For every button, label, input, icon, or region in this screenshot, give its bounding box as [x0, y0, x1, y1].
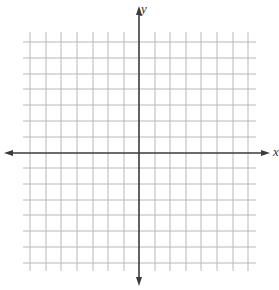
y-axis-down-arrow-icon — [136, 277, 142, 286]
x-axis-left-arrow-icon — [4, 150, 13, 156]
x-axis-right-arrow-icon — [261, 150, 270, 156]
axes — [4, 6, 270, 286]
coordinate-plane — [0, 0, 279, 290]
y-axis-label: y — [141, 2, 147, 15]
x-axis-label: x — [273, 145, 279, 158]
